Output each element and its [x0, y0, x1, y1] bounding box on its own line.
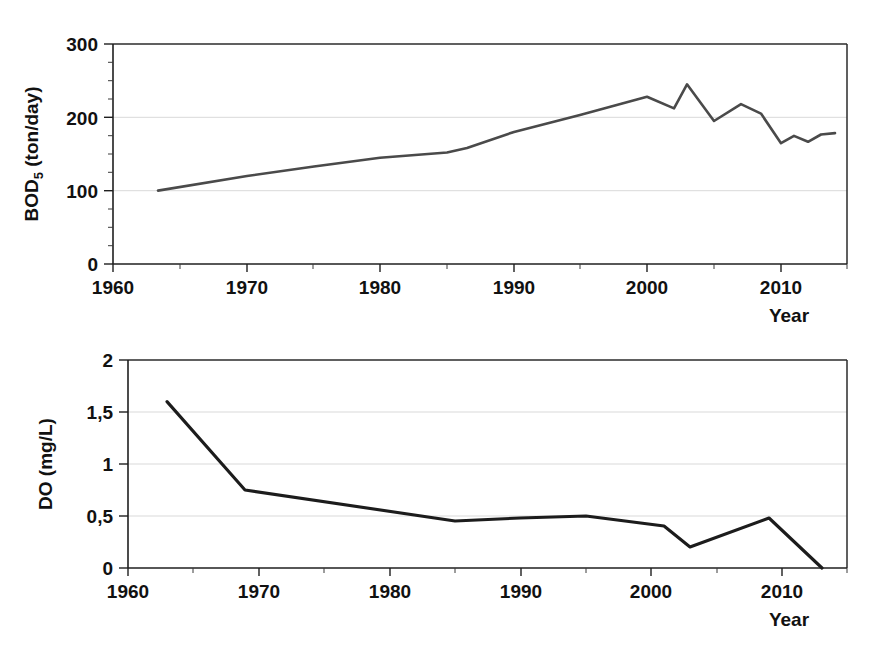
svg-text:BOD5 (ton/day): BOD5 (ton/day) — [21, 87, 46, 222]
do-y-axis-title-text: DO (mg/L) — [35, 418, 56, 510]
do-xtick-2000: 2000 — [630, 581, 672, 602]
bod5-xtick-2000: 2000 — [626, 277, 668, 298]
bod5-xtick-2010: 2010 — [760, 277, 802, 298]
figure-container: 0 100 200 300 1960 1970 1980 1990 2000 2… — [0, 0, 894, 650]
do-xtick-1980: 1980 — [369, 581, 411, 602]
do-y-tick-labels: 0 0,5 1 1,5 2 — [87, 350, 114, 579]
do-data-line — [167, 402, 822, 568]
bod5-ytick-100: 100 — [66, 181, 98, 202]
bod5-xtick-1980: 1980 — [359, 277, 401, 298]
bod5-x-tick-labels: 1960 1970 1980 1990 2000 2010 — [92, 277, 802, 298]
do-ytick-1: 1 — [102, 454, 113, 475]
bod5-ytick-0: 0 — [87, 254, 98, 275]
do-chart-panel: 0 0,5 1 1,5 2 1960 1970 1980 1990 2000 2… — [0, 330, 894, 650]
do-ytick-1p5: 1,5 — [87, 402, 114, 423]
bod5-ytick-300: 300 — [66, 34, 98, 55]
bod5-xtick-1970: 1970 — [226, 277, 268, 298]
bod5-chart-panel: 0 100 200 300 1960 1970 1980 1990 2000 2… — [0, 0, 894, 330]
bod5-y-axis-title-main: BOD — [21, 179, 42, 221]
do-ytick-0p5: 0,5 — [87, 506, 114, 527]
bod5-plot-frame — [113, 44, 847, 264]
bod5-x-axis-title: Year — [769, 305, 810, 326]
do-gridlines — [128, 412, 847, 516]
do-xtick-1970: 1970 — [238, 581, 280, 602]
bod5-y-tick-labels: 0 100 200 300 — [66, 34, 98, 275]
bod5-data-line — [158, 84, 835, 190]
do-chart-svg: 0 0,5 1 1,5 2 1960 1970 1980 1990 2000 2… — [0, 330, 894, 650]
do-xtick-1990: 1990 — [500, 581, 542, 602]
bod5-xtick-1960: 1960 — [92, 277, 134, 298]
do-ytick-2: 2 — [102, 350, 113, 371]
bod5-chart-svg: 0 100 200 300 1960 1970 1980 1990 2000 2… — [0, 0, 894, 330]
bod5-xtick-1990: 1990 — [493, 277, 535, 298]
bod5-y-axis-title-rest: (ton/day) — [21, 87, 42, 173]
do-y-major-ticks — [119, 360, 128, 568]
do-y-axis-title: DO (mg/L) — [35, 418, 56, 510]
do-x-tick-labels: 1960 1970 1980 1990 2000 2010 — [107, 581, 803, 602]
do-xtick-1960: 1960 — [107, 581, 149, 602]
do-x-axis-title: Year — [769, 609, 810, 630]
bod5-ytick-200: 200 — [66, 108, 98, 129]
do-ytick-0: 0 — [102, 558, 113, 579]
bod5-y-axis-title: BOD5 (ton/day) — [21, 87, 46, 222]
bod5-y-axis-title-sub: 5 — [31, 172, 46, 179]
do-xtick-2010: 2010 — [761, 581, 803, 602]
